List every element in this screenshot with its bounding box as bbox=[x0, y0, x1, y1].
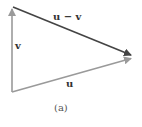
label-v: v bbox=[15, 40, 21, 51]
label-u-minus-v: u − v bbox=[53, 11, 81, 22]
label-u: u bbox=[66, 78, 73, 89]
figure-caption: (a) bbox=[54, 102, 68, 113]
